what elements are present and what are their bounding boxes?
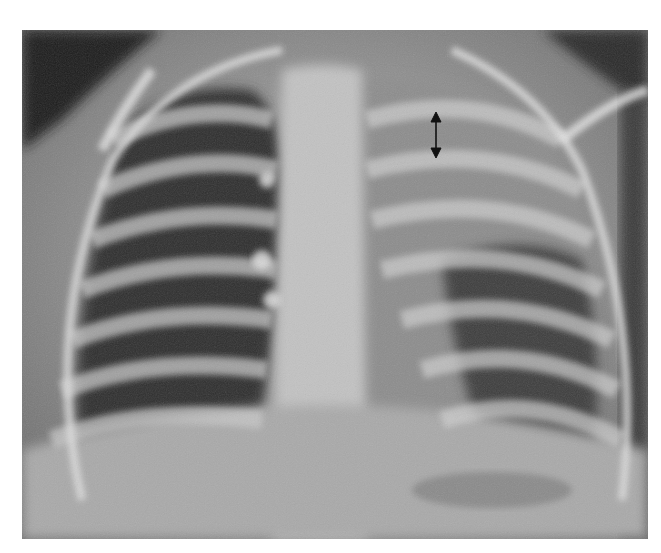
- xray-rendering: [22, 30, 648, 539]
- chest-xray-image: [22, 30, 648, 539]
